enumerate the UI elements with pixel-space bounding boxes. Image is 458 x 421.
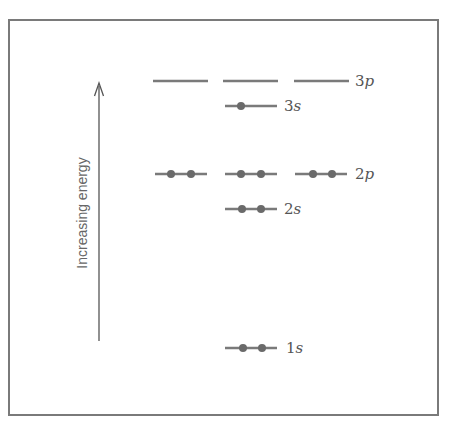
energy-axis-label: Increasing energy [74,157,90,268]
electron-dot [237,170,245,178]
level-2s: 2s [225,200,302,218]
electron-dot [239,344,247,352]
electron-dot [309,170,317,178]
level-label-3p: 3p [355,72,375,90]
electron-dot [258,344,266,352]
electron-dot [238,205,246,213]
level-label-1s: 1s [286,339,304,357]
level-label-2s: 2s [284,200,302,218]
level-label-2p: 2p [355,165,375,183]
energy-axis: Increasing energy [74,83,104,341]
electron-dot [187,170,195,178]
level-2p: 2p [155,165,375,183]
electron-dot [328,170,336,178]
level-3s: 3s [225,97,302,115]
electron-dot [257,170,265,178]
level-1s: 1s [225,339,304,357]
electron-dot [257,205,265,213]
electron-dot [237,102,245,110]
level-3p: 3p [153,72,375,90]
level-label-3s: 3s [284,97,302,115]
electron-dot [167,170,175,178]
energy-level-diagram: Increasing energy 3p 3s 2p 2s [0,0,458,421]
